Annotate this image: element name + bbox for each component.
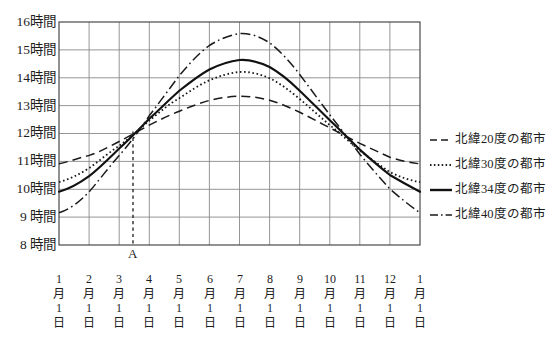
legend-item-lat30: 北緯30度の都市 — [430, 152, 558, 177]
legend-item-lat40: 北緯40度の都市 — [430, 202, 558, 227]
legend-label: 北緯30度の都市 — [455, 158, 546, 171]
legend-label: 北緯40度の都市 — [455, 208, 546, 221]
dashed-line-icon — [430, 134, 452, 146]
x-axis-tick-label: 8 月 1 日 — [259, 272, 281, 330]
x-axis-tick-label: 1 月 1 日 — [48, 272, 70, 330]
x-axis-tick-label: 6 月 1 日 — [199, 272, 221, 330]
x-axis-tick-label: 1 月 1 日 — [409, 272, 431, 330]
x-axis-tick-label: 9 月 1 日 — [289, 272, 311, 330]
x-axis-tick-label: 7 月 1 日 — [229, 272, 251, 330]
point-a-label: A — [128, 247, 137, 260]
legend-label: 北緯34度の都市 — [455, 183, 546, 196]
dash-dot-line-icon — [430, 209, 452, 221]
x-axis-tick-label: 3 月 1 日 — [108, 272, 130, 330]
x-axis-tick-label: 2 月 1 日 — [78, 272, 100, 330]
x-axis-tick-label: 11 月 1 日 — [349, 272, 371, 330]
dotted-line-icon — [430, 159, 452, 171]
x-axis-tick-label: 5 月 1 日 — [168, 272, 190, 330]
legend-item-lat34: 北緯34度の都市 — [430, 177, 558, 202]
legend-item-lat20: 北緯20度の都市 — [430, 127, 558, 152]
daylight-hours-chart: 16時間 15時間 14時間 13時間 12時間 11時間 10時間 9 時間 … — [0, 0, 559, 346]
legend-label: 北緯20度の都市 — [455, 133, 546, 146]
x-axis-tick-label: 4 月 1 日 — [138, 272, 160, 330]
chart-legend: 北緯20度の都市 北緯30度の都市 北緯34度の都市 北緯40度の都市 — [430, 127, 558, 227]
solid-line-icon — [430, 184, 452, 196]
x-axis-tick-label: 12 月 1 日 — [379, 272, 401, 330]
x-axis-tick-label: 10 月 1 日 — [319, 272, 341, 330]
